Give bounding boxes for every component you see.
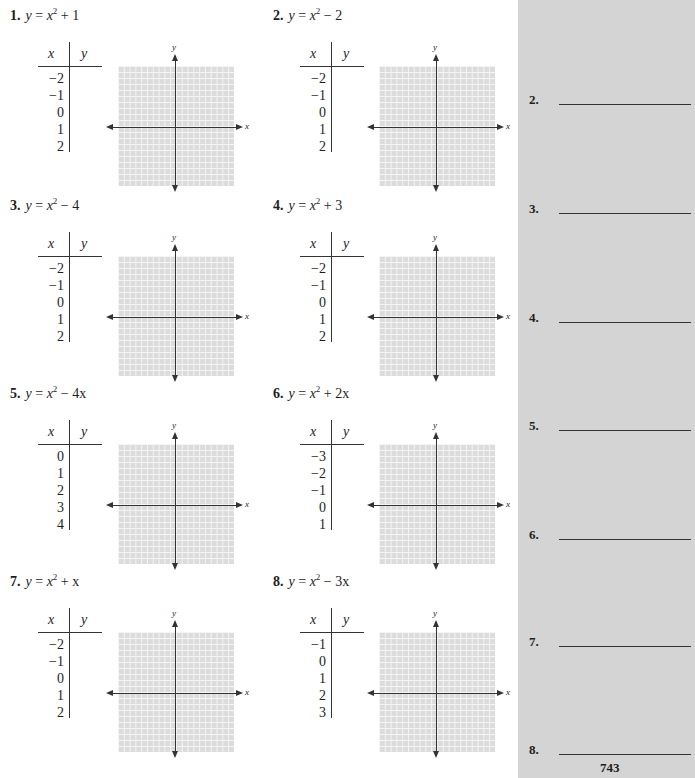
table-header-x: x	[48, 424, 54, 440]
problem-number: 6.	[273, 386, 284, 401]
equation: y = x2 − 4	[26, 198, 80, 213]
x-axis	[369, 505, 501, 506]
arrow-left-icon	[367, 502, 374, 508]
table-divider	[69, 420, 70, 530]
page-number: 743	[600, 760, 620, 776]
y-axis-label: y	[433, 232, 437, 242]
xy-table: x y −2 −1 0 1 2	[38, 608, 102, 720]
arrow-up-icon	[172, 432, 178, 439]
x-value: 0	[298, 295, 326, 311]
x-value: 3	[298, 705, 326, 721]
problem-number: 2.	[273, 8, 284, 23]
grid-paper	[118, 632, 234, 752]
table-divider	[331, 232, 332, 342]
table-header-x: x	[48, 612, 54, 628]
x-value: 2	[36, 483, 64, 499]
answer-blank[interactable]	[559, 104, 691, 105]
x-value: 0	[298, 105, 326, 121]
x-value: −1	[36, 278, 64, 294]
arrow-right-icon	[236, 502, 243, 508]
coordinate-grid[interactable]: x y	[369, 230, 509, 380]
table-header-y: y	[343, 236, 349, 252]
y-axis-label: y	[172, 232, 176, 242]
x-axis	[108, 505, 240, 506]
table-header-y: y	[343, 46, 349, 62]
table-divider	[69, 42, 70, 152]
y-axis	[436, 434, 437, 568]
table-divider	[331, 420, 332, 530]
arrow-left-icon	[106, 124, 113, 130]
answer-6: 6.	[529, 527, 539, 543]
x-value: 4	[36, 517, 64, 533]
x-value: 1	[36, 466, 64, 482]
arrow-right-icon	[236, 690, 243, 696]
equation: y = x2 − 4x	[26, 386, 87, 401]
table-header-y: y	[81, 236, 87, 252]
answer-2: 2.	[529, 92, 539, 108]
coordinate-grid[interactable]: x y	[108, 40, 248, 190]
x-value: 2	[36, 705, 64, 721]
problem-4: 4.y = x2 + 3 x y −2 −1 0 1 2 x y	[273, 194, 523, 382]
coordinate-grid[interactable]: x y	[108, 418, 248, 568]
x-axis-label: x	[245, 311, 249, 321]
coordinate-grid[interactable]: x y	[108, 606, 248, 756]
coordinate-grid[interactable]: x y	[369, 418, 509, 568]
grid-paper	[118, 66, 234, 186]
coordinate-grid[interactable]: x y	[369, 40, 509, 190]
y-axis	[175, 246, 176, 380]
arrow-down-icon	[172, 375, 178, 382]
answer-5: 5.	[529, 418, 539, 434]
problem-number: 7.	[10, 574, 21, 589]
answer-label: 2.	[529, 92, 539, 107]
y-axis-label: y	[433, 608, 437, 618]
xy-table: x y −2 −1 0 1 2	[300, 42, 364, 154]
coordinate-grid[interactable]: x y	[369, 606, 509, 756]
answer-label: 6.	[529, 527, 539, 542]
problem-number: 4.	[273, 198, 284, 213]
arrow-left-icon	[367, 690, 374, 696]
x-value: 0	[298, 654, 326, 670]
problem-5: 5.y = x2 − 4x x y 0 1 2 3 4 x y	[10, 382, 260, 570]
arrow-up-icon	[433, 244, 439, 251]
y-axis	[436, 56, 437, 190]
answer-panel: 2. 3. 4. 5. 6. 7. 8. 743	[518, 0, 695, 778]
table-header-x: x	[310, 236, 316, 252]
grid-paper	[379, 444, 495, 564]
answer-blank[interactable]	[559, 430, 691, 431]
x-value: 3	[36, 500, 64, 516]
arrow-right-icon	[236, 314, 243, 320]
problem-number: 1.	[10, 8, 21, 23]
x-value: 1	[36, 122, 64, 138]
problem-number: 5.	[10, 386, 21, 401]
table-header-rule	[300, 66, 364, 67]
arrow-down-icon	[433, 375, 439, 382]
answer-blank[interactable]	[559, 754, 691, 755]
x-axis-label: x	[245, 687, 249, 697]
table-header-rule	[38, 256, 102, 257]
problem-1: 1.y = x2 + 1 x y −2 −1 0 1 2 x y	[10, 4, 260, 192]
arrow-down-icon	[433, 185, 439, 192]
answer-3: 3.	[529, 201, 539, 217]
answer-blank[interactable]	[559, 646, 691, 647]
answer-blank[interactable]	[559, 213, 691, 214]
problem-heading: 8.y = x2 − 3x	[273, 572, 349, 590]
xy-table: x y −2 −1 0 1 2	[300, 232, 364, 344]
x-axis-label: x	[506, 121, 510, 131]
equation: y = x2 + 2x	[289, 386, 350, 401]
coordinate-grid[interactable]: x y	[108, 230, 248, 380]
answer-blank[interactable]	[559, 539, 691, 540]
grid-paper	[118, 444, 234, 564]
x-axis-label: x	[245, 121, 249, 131]
problem-7: 7.y = x2 + x x y −2 −1 0 1 2 x y	[10, 570, 260, 758]
table-header-y: y	[81, 612, 87, 628]
answer-label: 8.	[529, 742, 539, 757]
x-axis-label: x	[506, 499, 510, 509]
x-axis-label: x	[245, 499, 249, 509]
answer-blank[interactable]	[559, 322, 691, 323]
xy-table: x y −2 −1 0 1 2	[38, 42, 102, 154]
x-value: −1	[298, 88, 326, 104]
x-axis	[108, 127, 240, 128]
arrow-up-icon	[172, 54, 178, 61]
table-divider	[331, 42, 332, 152]
arrow-down-icon	[172, 185, 178, 192]
